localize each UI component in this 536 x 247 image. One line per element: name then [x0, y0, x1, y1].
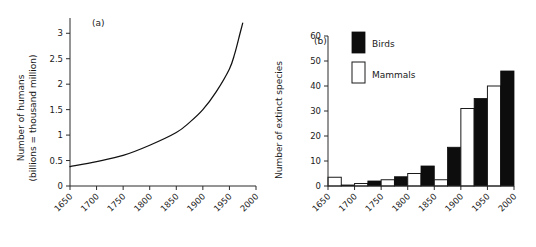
bar-birds: [394, 177, 407, 186]
panel-a-y-axis-title-line2: (billions = thousand million): [28, 55, 38, 182]
bar-mammals: [434, 180, 447, 186]
panel-a-x-tick-label: 1650: [52, 191, 74, 213]
panel-b-y-axis-title: Number of extinct species: [274, 61, 284, 179]
figure-two-panel: 00.511.522.53 16501700175018001850190019…: [0, 0, 536, 247]
bar-mammals: [461, 109, 474, 187]
panel-a-svg: 00.511.522.53 16501700175018001850190019…: [0, 0, 268, 247]
panel-a-x-tick-label: 1700: [79, 191, 101, 213]
bar-mammals: [328, 177, 341, 186]
panel-b-x-ticks: 16501700175018001850190019502000: [310, 186, 518, 214]
panel-b-x-tick-label: 1850: [416, 191, 438, 213]
panel-b-x-tick-label: 1700: [337, 191, 359, 213]
panel-b-y-tick-label: 50: [310, 56, 321, 66]
panel-a-y-axis-title-line1: Number of humans: [16, 74, 26, 161]
bar-mammals: [487, 86, 500, 186]
panel-a-y-tick-label: 2.5: [49, 54, 63, 64]
bar-birds: [501, 71, 514, 186]
panel-a-x-tick-label: 1900: [185, 191, 207, 213]
panel-a-x-tick-label: 1750: [105, 191, 127, 213]
panel-b-x-tick-label: 1900: [443, 191, 465, 213]
panel-a-y-tick-label: 0: [58, 181, 63, 191]
bar-birds: [448, 147, 461, 186]
panel-b-x-tick-label: 2000: [496, 191, 518, 213]
panel-b-x-tick-label: 1750: [363, 191, 385, 213]
legend-label-birds: Birds: [372, 39, 395, 49]
population-curve: [70, 23, 243, 167]
bar-birds: [474, 99, 487, 187]
panel-b-y-tick-label: 20: [310, 131, 321, 141]
panel-a-x-tick-label: 1950: [211, 191, 233, 213]
legend-swatch-mammals: [352, 62, 365, 83]
panel-a-y-tick-label: 0.5: [49, 156, 63, 166]
panel-a-x-tick-label: 2000: [238, 191, 260, 213]
panel-b-y-tick-label: 0: [316, 181, 321, 191]
panel-a-y-tick-label: 2: [58, 79, 63, 89]
panel-b-label: (b): [314, 36, 327, 46]
bar-mammals: [408, 174, 421, 187]
panel-b-x-tick-label: 1950: [469, 191, 491, 213]
bar-group: [328, 71, 514, 186]
bar-birds: [421, 166, 434, 186]
panel-b-x-tick-label: 1650: [310, 191, 332, 213]
panel-b-y-ticks: 0102030405060: [310, 31, 328, 191]
panel-a-y-tick-label: 1: [58, 130, 63, 140]
panel-b-svg: 0102030405060 16501700175018001850190019…: [268, 0, 536, 247]
panel-a-x-tick-label: 1800: [132, 191, 154, 213]
panel-a-y-ticks: 00.511.522.53: [49, 28, 70, 191]
panel-a-y-tick-label: 3: [58, 28, 63, 38]
panel-a-label: (a): [92, 18, 105, 28]
bar-birds: [368, 181, 381, 186]
panel-a-x-ticks: 16501700175018001850190019502000: [52, 186, 260, 214]
panel-a-human-population: 00.511.522.53 16501700175018001850190019…: [0, 0, 268, 247]
panel-a-x-tick-label: 1850: [158, 191, 180, 213]
panel-b-extinct-species: 0102030405060 16501700175018001850190019…: [268, 0, 536, 247]
panel-a-y-tick-label: 1.5: [49, 105, 63, 115]
panel-b-y-tick-label: 40: [310, 81, 321, 91]
legend-label-mammals: Mammals: [372, 70, 416, 80]
legend-swatch-birds: [352, 32, 365, 53]
bar-mammals: [381, 180, 394, 186]
panel-b-x-tick-label: 1800: [390, 191, 412, 213]
panel-b-y-tick-label: 30: [310, 106, 321, 116]
panel-b-y-tick-label: 10: [310, 156, 321, 166]
